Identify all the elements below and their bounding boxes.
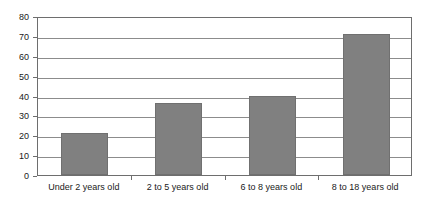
y-axis-tick-label: 0 xyxy=(1,171,29,181)
x-axis-tick-label: Under 2 years old xyxy=(37,182,131,192)
y-axis-tick-label: 20 xyxy=(1,131,29,141)
y-axis-tick-label: 70 xyxy=(1,32,29,42)
bar-slot xyxy=(38,18,132,175)
plot-area xyxy=(37,17,412,176)
bar-chart: 01020304050607080 Under 2 years old2 to … xyxy=(0,0,427,210)
bar-slot xyxy=(226,18,320,175)
x-axis-tick-mark xyxy=(131,176,132,180)
y-axis-tick-mark xyxy=(33,176,37,177)
bars-layer xyxy=(38,18,411,175)
bar xyxy=(343,34,390,175)
bar xyxy=(61,133,108,175)
bar xyxy=(155,103,202,175)
x-axis-tick-label: 8 to 18 years old xyxy=(318,182,412,192)
bar-slot xyxy=(319,18,412,175)
y-axis-tick-label: 40 xyxy=(1,92,29,102)
y-axis-tick-label: 10 xyxy=(1,151,29,161)
y-axis-tick-label: 80 xyxy=(1,12,29,22)
x-axis-tick-label: 2 to 5 years old xyxy=(131,182,225,192)
x-axis-tick-label: 6 to 8 years old xyxy=(225,182,319,192)
bar xyxy=(249,96,296,176)
bar-slot xyxy=(132,18,226,175)
y-axis-tick-label: 50 xyxy=(1,72,29,82)
y-axis-tick-label: 30 xyxy=(1,111,29,121)
y-axis-tick-label: 60 xyxy=(1,52,29,62)
x-axis-tick-mark xyxy=(225,176,226,180)
x-axis-tick-mark xyxy=(318,176,319,180)
